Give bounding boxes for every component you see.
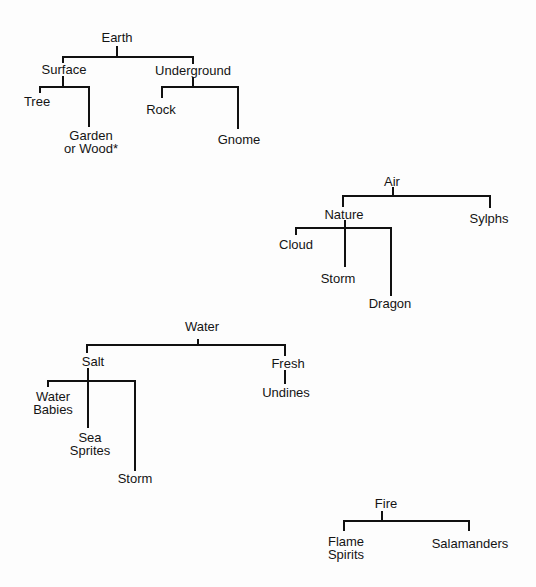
node-sea-sprites: SeaSprites	[70, 432, 110, 457]
node-flame-spirits: FlameSpirits	[328, 536, 364, 561]
node-fire: Fire	[375, 497, 397, 510]
node-label: Spirits	[328, 549, 364, 562]
node-gnome: Gnome	[218, 133, 261, 146]
connector-lines	[0, 0, 536, 587]
node-label: Cloud	[279, 238, 313, 251]
node-label: Sprites	[70, 445, 110, 458]
node-label: Water	[185, 320, 219, 333]
node-label: Babies	[33, 404, 73, 417]
node-label: Undines	[262, 386, 310, 399]
node-label: Fire	[375, 497, 397, 510]
tree-fire-connectors	[344, 512, 469, 530]
node-tree: Tree	[24, 95, 50, 108]
node-salt: Salt	[82, 355, 104, 368]
node-label: Storm	[321, 272, 356, 285]
node-cloud: Cloud	[279, 238, 313, 251]
node-label: Storm	[118, 472, 153, 485]
node-underground: Underground	[155, 64, 231, 77]
node-label: Underground	[155, 64, 231, 77]
node-sylphs: Sylphs	[469, 212, 508, 225]
node-label: Dragon	[369, 297, 412, 310]
node-label: or Wood*	[64, 143, 118, 156]
node-air: Air	[384, 175, 400, 188]
node-salamanders: Salamanders	[432, 537, 509, 550]
node-label: Sylphs	[469, 212, 508, 225]
node-dragon: Dragon	[369, 297, 412, 310]
node-label: Tree	[24, 95, 50, 108]
node-label: Air	[384, 175, 400, 188]
node-water: Water	[185, 320, 219, 333]
node-storm-water: Storm	[118, 472, 153, 485]
node-label: Earth	[101, 31, 132, 44]
node-garden-or-wood: Gardenor Wood*	[64, 130, 118, 155]
node-surface: Surface	[42, 63, 87, 76]
node-storm-air: Storm	[321, 272, 356, 285]
node-label: Salt	[82, 355, 104, 368]
node-undines: Undines	[262, 386, 310, 399]
node-label: Nature	[324, 208, 363, 221]
node-label: Rock	[146, 103, 176, 116]
node-rock: Rock	[146, 103, 176, 116]
tree-earth-connectors	[40, 47, 238, 128]
node-label: Gnome	[218, 133, 261, 146]
node-fresh: Fresh	[271, 357, 304, 370]
node-label: Surface	[42, 63, 87, 76]
node-water-babies: WaterBabies	[33, 391, 73, 416]
node-label: Fresh	[271, 357, 304, 370]
node-label: Salamanders	[432, 537, 509, 550]
elemental-tree-diagram: EarthSurfaceUndergroundTreeGardenor Wood…	[0, 0, 536, 587]
node-nature: Nature	[324, 208, 363, 221]
node-earth: Earth	[101, 31, 132, 44]
